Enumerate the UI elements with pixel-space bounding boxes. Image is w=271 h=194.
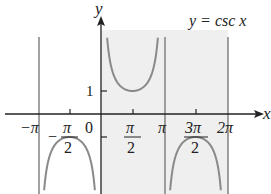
x-tick-label-3pi-2-den: 2 [191, 139, 199, 156]
x-tick-label-zero: 0 [85, 119, 93, 136]
y-tick-label-one: 1 [86, 83, 94, 99]
x-tick-label-neg-pi-2-minus: − [48, 128, 57, 145]
x-tick-label-pi: π [158, 119, 167, 136]
x-tick-label-pi-2-num: π [126, 119, 135, 136]
x-tick-label-neg-pi: −π [20, 119, 40, 136]
chart-title: y = csc x [187, 12, 246, 30]
x-tick-label-3pi-2-num: 3π [184, 119, 202, 136]
y-axis-label: y [93, 0, 103, 18]
x-tick-label-neg-pi-2-num: π [63, 119, 72, 136]
x-tick-label-pi-2-den: 2 [127, 139, 135, 156]
x-axis-label: x [262, 104, 271, 123]
x-tick-label-neg-pi-2-den: 2 [64, 139, 72, 156]
x-tick-label-2pi: 2π [217, 119, 234, 136]
csc-chart: y x y = csc x 1 −π π − 2 0 π 2 π 3π 2 2π [0, 0, 271, 194]
